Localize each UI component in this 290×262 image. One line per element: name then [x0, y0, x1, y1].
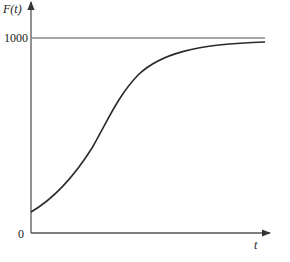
- x-axis-label: t: [254, 238, 258, 252]
- y-tick-1000: 1000: [4, 31, 28, 45]
- origin-label: 0: [18, 227, 24, 241]
- y-axis-label: F(t): [2, 2, 22, 16]
- logistic-curve: [31, 42, 265, 212]
- logistic-chart: F(t) 1000 0 t: [0, 0, 290, 262]
